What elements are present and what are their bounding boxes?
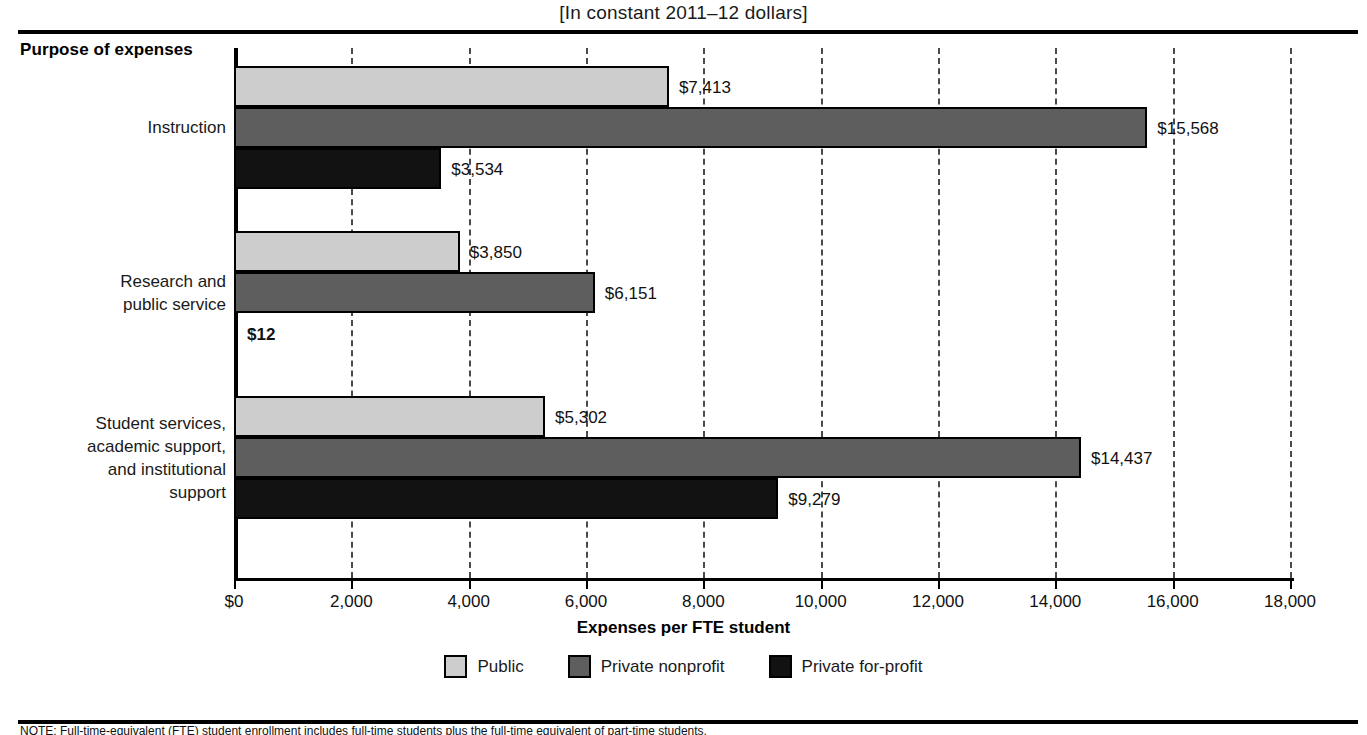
chart-legend: PublicPrivate nonprofitPrivate for-profi… bbox=[0, 655, 1367, 678]
bar-value-label: $3,534 bbox=[451, 161, 503, 178]
legend-label: Private nonprofit bbox=[601, 657, 725, 677]
x-axis-tick bbox=[234, 578, 236, 589]
legend-item[interactable]: Public bbox=[444, 655, 523, 678]
bar-public[interactable] bbox=[234, 66, 669, 107]
category-label: Research and public service bbox=[120, 270, 226, 316]
chart-note: NOTE: Full-time-equivalent (FTE) student… bbox=[20, 724, 1340, 735]
x-axis-tick-label: 12,000 bbox=[912, 592, 964, 612]
bar-forprofit[interactable] bbox=[234, 148, 441, 189]
bar-value-label: $15,568 bbox=[1157, 120, 1218, 137]
bar-public[interactable] bbox=[234, 396, 545, 437]
x-axis-tick bbox=[821, 578, 823, 589]
bar-value-label: $9,279 bbox=[788, 491, 840, 508]
gridline bbox=[1290, 48, 1292, 578]
x-axis-tick bbox=[703, 578, 705, 589]
bar-forprofit[interactable] bbox=[234, 313, 238, 354]
x-axis-tick-label: 16,000 bbox=[1147, 592, 1199, 612]
x-axis-tick-label: 10,000 bbox=[795, 592, 847, 612]
bar-value-label: $7,413 bbox=[679, 79, 731, 96]
x-axis-line bbox=[234, 578, 1294, 581]
chart-page: [In constant 2011–12 dollars] Purpose of… bbox=[0, 0, 1367, 735]
category-label: Student services, academic support, and … bbox=[87, 412, 226, 504]
x-axis-tick bbox=[1055, 578, 1057, 589]
bar-public[interactable] bbox=[234, 231, 460, 272]
x-axis-tick bbox=[351, 578, 353, 589]
row-header-label: Purpose of expenses bbox=[20, 40, 193, 60]
bar-forprofit[interactable] bbox=[234, 478, 778, 519]
x-axis-tick bbox=[586, 578, 588, 589]
x-axis-tick-label: 14,000 bbox=[1029, 592, 1081, 612]
legend-label: Public bbox=[477, 657, 523, 677]
x-axis-tick-label: 18,000 bbox=[1264, 592, 1316, 612]
legend-swatch-icon bbox=[769, 655, 792, 678]
legend-swatch-icon bbox=[568, 655, 591, 678]
legend-item[interactable]: Private nonprofit bbox=[568, 655, 725, 678]
x-axis-tick bbox=[1290, 578, 1292, 589]
bar-value-label: $6,151 bbox=[605, 285, 657, 302]
x-axis-tick-label: 6,000 bbox=[565, 592, 608, 612]
x-axis-tick-label: 8,000 bbox=[682, 592, 725, 612]
x-axis-title: Expenses per FTE student bbox=[0, 618, 1367, 638]
plot-area: $7,413$15,568$3,534$3,850$6,151$12$5,302… bbox=[234, 48, 1290, 578]
top-divider bbox=[18, 30, 1358, 34]
x-axis-tick bbox=[938, 578, 940, 589]
bar-value-label: $14,437 bbox=[1091, 450, 1152, 467]
x-axis-tick bbox=[1173, 578, 1175, 589]
bar-nonprofit[interactable] bbox=[234, 437, 1081, 478]
x-axis-tick-label: 4,000 bbox=[447, 592, 490, 612]
x-axis-tick bbox=[469, 578, 471, 589]
bar-value-label: $3,850 bbox=[470, 244, 522, 261]
bar-nonprofit[interactable] bbox=[234, 272, 595, 313]
x-axis-tick-label: $0 bbox=[225, 592, 244, 612]
legend-label: Private for-profit bbox=[802, 657, 923, 677]
category-label: Instruction bbox=[148, 116, 226, 139]
bar-value-label: $12 bbox=[247, 326, 275, 343]
legend-swatch-icon bbox=[444, 655, 467, 678]
x-axis-tick-label: 2,000 bbox=[330, 592, 373, 612]
bar-value-label: $5,302 bbox=[555, 409, 607, 426]
legend-item[interactable]: Private for-profit bbox=[769, 655, 923, 678]
bar-nonprofit[interactable] bbox=[234, 107, 1147, 148]
chart-subtitle: [In constant 2011–12 dollars] bbox=[0, 2, 1367, 24]
